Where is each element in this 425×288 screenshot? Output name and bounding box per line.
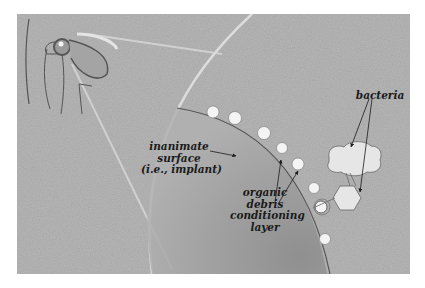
- conditioning-layer-label: organic debris conditioning layer: [230, 187, 300, 233]
- inanimate-surface-label: inanimate surface (i.e., implant): [141, 141, 217, 176]
- label-line: organic: [230, 187, 300, 199]
- label-line: conditioning: [230, 210, 300, 222]
- label-line: layer: [230, 222, 300, 234]
- bacterium-cloud-icon: [328, 142, 381, 176]
- label-line: (i.e., implant): [141, 164, 217, 176]
- biofilm-diagram: inanimate surface (i.e., implant) organi…: [17, 14, 410, 274]
- bacteria-label: bacteria: [355, 90, 405, 102]
- label-line: inanimate: [141, 141, 217, 153]
